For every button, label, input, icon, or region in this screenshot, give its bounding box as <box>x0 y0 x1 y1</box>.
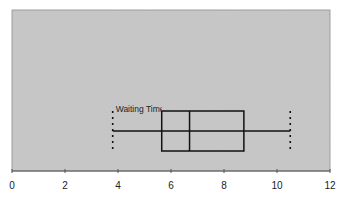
box-plot-chart: 024681012 Waiting Time <box>0 0 340 200</box>
x-tick-label: 10 <box>271 180 283 191</box>
series-label: Waiting Time <box>116 104 165 114</box>
plot-area <box>12 10 330 171</box>
x-tick-label: 4 <box>115 180 121 191</box>
x-tick-label: 0 <box>9 180 15 191</box>
x-tick-label: 8 <box>221 180 227 191</box>
x-axis: 024681012 <box>9 169 336 191</box>
x-tick-label: 6 <box>168 180 174 191</box>
x-tick-label: 2 <box>62 180 68 191</box>
x-tick-label: 12 <box>324 180 336 191</box>
